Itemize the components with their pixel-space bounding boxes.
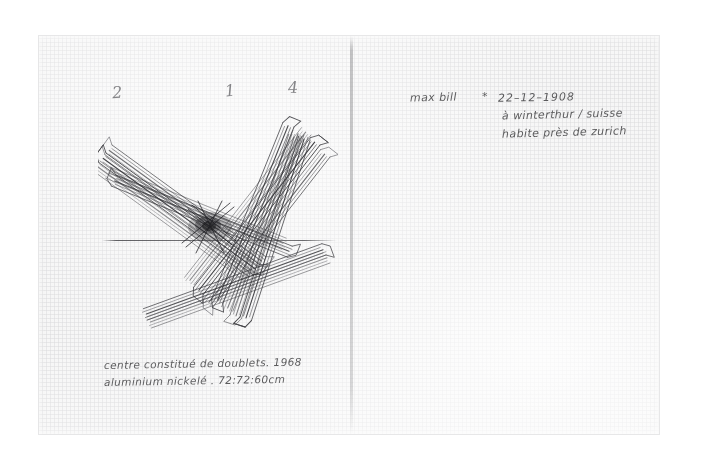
artist-name-text: max bill (410, 91, 457, 105)
notebook-page: 2 1 4 (38, 35, 660, 435)
scanned-notebook-spread: 2 1 4 (0, 0, 701, 467)
artwork-caption: centre constitué de doublets. 1968 alumi… (104, 357, 354, 391)
birth-place-text: à winterthur / suisse (502, 107, 623, 123)
artist-biography-notes: max bill * 22–12–1908 à winterthur / sui… (410, 91, 650, 108)
artist-note-row: max bill * 22–12–1908 à winterthur / sui… (410, 91, 650, 108)
residence-text: habite près de zurich (502, 124, 627, 140)
pencil-numeral-4: 4 (288, 78, 299, 98)
birth-asterisk-icon: * (482, 90, 488, 103)
pencil-numeral-2: 2 (111, 83, 122, 103)
caption-line-material: aluminium nickelé . 72:72:60cm (104, 370, 354, 391)
birth-date-text: 22–12–1908 (498, 90, 575, 104)
pencil-numeral-1: 1 (224, 81, 236, 101)
sculpture-sketch (98, 105, 338, 335)
